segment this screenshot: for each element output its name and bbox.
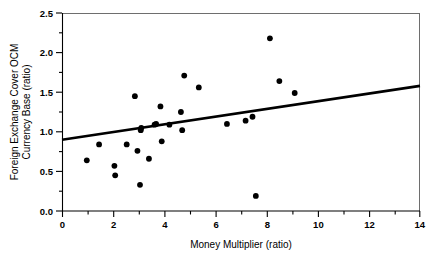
- data-point: [243, 118, 249, 124]
- data-point: [167, 122, 173, 128]
- data-point: [112, 172, 118, 178]
- data-point: [84, 157, 90, 163]
- data-point: [112, 163, 118, 169]
- trend-line: [62, 86, 420, 140]
- x-tick-label: 10: [313, 219, 324, 230]
- data-point: [250, 114, 256, 120]
- x-axis-tick-labels: 0 2 4 6 8 10 12 14: [60, 219, 426, 230]
- scatter-chart: 0.0 0.5 1.0 1.5 2.0 2.5: [0, 0, 431, 256]
- data-point: [181, 73, 187, 79]
- data-point: [196, 85, 202, 91]
- x-tick-label: 14: [415, 219, 426, 230]
- data-point: [267, 35, 273, 41]
- chart-canvas: 0.0 0.5 1.0 1.5 2.0 2.5: [0, 0, 431, 256]
- data-point: [224, 121, 230, 127]
- y-tick-label: 2.5: [40, 8, 54, 19]
- y-tick-label: 0.5: [40, 166, 54, 177]
- data-point: [158, 104, 164, 110]
- data-point: [178, 109, 184, 115]
- y-axis-title-line1: Foreign Exchange Cover OCM: [9, 44, 20, 181]
- x-axis-title: Money Multiplier (ratio): [190, 239, 292, 250]
- data-point: [135, 148, 141, 154]
- x-tick-label: 8: [265, 219, 270, 230]
- data-point: [124, 142, 130, 148]
- y-axis-title-line2: Currency Base (ratio): [21, 64, 32, 159]
- y-axis-ticks-minor: [59, 33, 62, 191]
- data-points-group: [84, 35, 298, 198]
- data-point: [159, 138, 165, 144]
- y-axis-tick-labels: 0.0 0.5 1.0 1.5 2.0 2.5: [40, 8, 54, 217]
- data-point: [179, 127, 185, 133]
- data-point: [146, 156, 152, 162]
- data-point: [292, 90, 298, 96]
- y-tick-label: 0.0: [40, 206, 53, 217]
- data-point: [137, 182, 143, 188]
- data-point: [276, 78, 282, 84]
- data-point: [138, 125, 144, 131]
- y-tick-label: 2.0: [40, 47, 53, 58]
- data-point: [253, 193, 259, 199]
- data-point: [153, 121, 159, 127]
- data-point: [96, 142, 102, 148]
- y-tick-label: 1.0: [40, 126, 53, 137]
- x-tick-label: 2: [111, 219, 116, 230]
- x-tick-label: 0: [60, 219, 65, 230]
- x-tick-label: 6: [213, 219, 218, 230]
- x-tick-label: 4: [162, 219, 168, 230]
- y-tick-label: 1.5: [40, 87, 54, 98]
- data-point: [132, 93, 138, 99]
- x-tick-label: 12: [364, 219, 375, 230]
